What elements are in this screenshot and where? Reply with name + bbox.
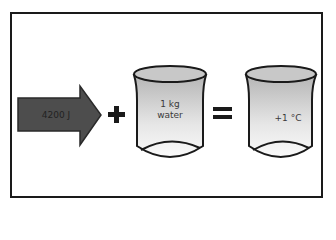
substance-label: water [150, 110, 190, 121]
energy-label: 4200 J [36, 110, 76, 121]
temperature-change-label: +1 °C [268, 113, 308, 124]
beaker-result [246, 66, 316, 157]
equals-sign [213, 107, 232, 119]
plus-sign [108, 106, 125, 123]
mass-label: 1 kg [150, 99, 190, 110]
